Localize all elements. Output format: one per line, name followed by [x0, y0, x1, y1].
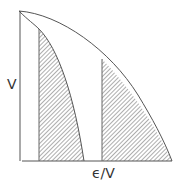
- y-axis-label: V: [7, 76, 17, 92]
- x-axis-label: ϵ/V: [92, 165, 115, 181]
- diagram-canvas: [0, 0, 183, 188]
- left-shaded-region: [39, 29, 84, 161]
- right-shaded-region: [102, 59, 172, 161]
